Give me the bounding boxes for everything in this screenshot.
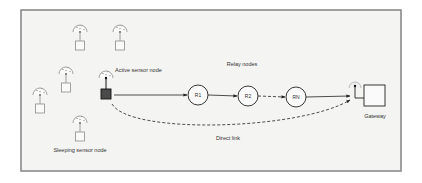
relay-nodes-label: Relay nodes xyxy=(227,61,258,67)
relay-node-r2: R2 xyxy=(238,86,258,106)
network-diagram: R1 R2 RN Active sensor node Sleeping sen… xyxy=(0,0,422,183)
active-sensor-label: Active sensor node xyxy=(115,67,162,73)
gateway-label: Gateway xyxy=(364,113,386,119)
relay-node-rn: RN xyxy=(286,87,306,107)
sleeping-sensor-label: Sleeping sensor node xyxy=(53,147,106,153)
relay-node-r1: R1 xyxy=(188,85,208,105)
relay-r2-label: R2 xyxy=(245,93,252,99)
direct-link-label: Direct link xyxy=(216,135,240,141)
relay-r1-label: R1 xyxy=(195,92,202,98)
relay-rn-label: RN xyxy=(292,94,300,100)
